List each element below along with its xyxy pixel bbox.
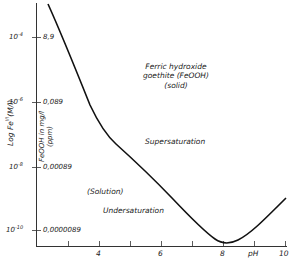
annotation-solid-line1: Ferric hydroxide	[143, 62, 209, 71]
x-tick-label-6: 6	[158, 250, 163, 258]
y-tick-label-1e-10: 10-10	[6, 225, 23, 234]
annotation-undersaturation: Undersaturation	[103, 206, 164, 215]
y-sub-label-1: 8,9	[43, 34, 54, 41]
annotation-solid-line2: goethite (FeOOH)	[143, 71, 209, 80]
x-tick-label-10: 10	[279, 250, 289, 258]
annotation-solid-line3: (solid)	[143, 81, 209, 90]
annotation-solid-region: Ferric hydroxide goethite (FeOOH) (solid…	[143, 62, 209, 90]
y-axis-title-primary: Log FeIII(M/l)	[5, 100, 14, 146]
x-tick-label-8: 8	[220, 250, 225, 258]
solubility-curve	[48, 4, 286, 243]
x-tick-label-4: 4	[96, 250, 101, 258]
y-sub-label-3: 0,00089	[43, 164, 72, 171]
y-axis-title-secondary-line1: FeOOH in mg/l	[38, 111, 46, 162]
x-axis-title: pH	[248, 250, 258, 258]
y-tick-label-1e-8: 10-8	[9, 162, 23, 171]
y-axis-title-secondary-line2: (ppm)	[46, 111, 54, 162]
x-ticks	[69, 241, 286, 246]
chart-container: 10-4 10-6 10-8 10-10 8,9 0,089 0,00089 0…	[0, 0, 291, 263]
y-axis-title-secondary: FeOOH in mg/l (ppm)	[38, 111, 54, 162]
y-sub-label-2: 0,089	[43, 99, 63, 106]
y-sub-label-4: 0,0000089	[43, 227, 81, 234]
annotation-supersaturation: Supersaturation	[145, 137, 205, 146]
y-tick-label-1e-4: 10-4	[9, 32, 23, 41]
annotation-solution: (Solution)	[87, 187, 123, 196]
